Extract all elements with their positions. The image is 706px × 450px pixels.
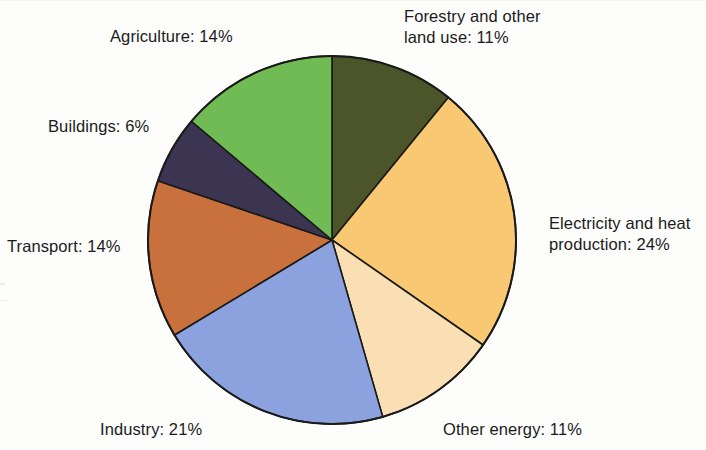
pie-label-agriculture: Agriculture: 14%	[110, 26, 233, 47]
pie-label-forestry: Forestry and other land use: 11%	[404, 6, 541, 48]
pie-label-other-energy: Other energy: 11%	[443, 419, 582, 440]
pie-label-transport: Transport: 14%	[7, 236, 121, 257]
pie-label-buildings: Buildings: 6%	[48, 116, 149, 137]
pie-label-electricity: Electricity and heat production: 24%	[549, 213, 690, 255]
pie-label-industry: Industry: 21%	[100, 419, 202, 440]
pie-chart: Forestry and other land use: 11% Electri…	[0, 0, 706, 450]
